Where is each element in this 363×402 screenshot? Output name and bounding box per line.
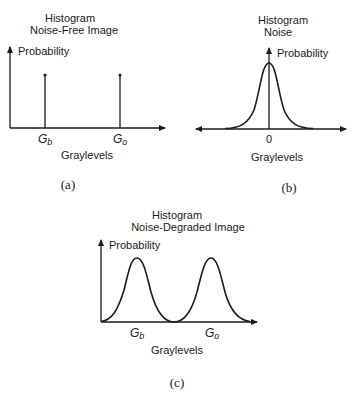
panel-a-caption: (a) [61, 177, 75, 192]
panel-c-bimodal-curve [101, 258, 250, 322]
panel-b-ylabel: Probability [277, 47, 329, 59]
panel-c-tick-go: Go [205, 326, 219, 341]
histogram-figure: Histogram Noise-Free Image Probability G… [0, 0, 363, 402]
panel-b-xlabel: Graylevels [251, 151, 303, 163]
panel-a-noise-free: Histogram Noise-Free Image Probability G… [10, 12, 165, 192]
panel-c-caption: (c) [170, 375, 184, 390]
panel-b-tick-zero: 0 [266, 133, 272, 145]
panel-a-title-line2: Noise-Free Image [30, 24, 118, 36]
panel-a-spike-object-tip [119, 74, 122, 77]
panel-c-title-line1: Histogram [152, 209, 202, 221]
panel-b-caption: (b) [281, 180, 296, 195]
panel-c-tick-gb: Gb [130, 326, 144, 341]
panel-b-title-line1: Histogram [258, 14, 308, 26]
panel-c-noise-degraded: Histogram Noise-Degraded Image Probabili… [101, 209, 257, 390]
panel-a-title-line1: Histogram [45, 12, 95, 24]
panel-a-tick-gb: Gb [38, 132, 52, 147]
panel-c-ylabel: Probability [109, 239, 161, 251]
panel-a-tick-go: Go [113, 132, 127, 147]
panel-a-spike-background-tip [44, 74, 47, 77]
panel-c-xlabel: Graylevels [151, 344, 203, 356]
panel-a-xlabel: Graylevels [61, 149, 113, 161]
panel-c-title-line2: Noise-Degraded Image [131, 221, 245, 233]
panel-a-ylabel: Probability [18, 45, 70, 57]
panel-b-title-line2: Noise [264, 26, 292, 38]
panel-b-noise: Histogram Noise Probability 0 Graylevels… [196, 14, 346, 195]
